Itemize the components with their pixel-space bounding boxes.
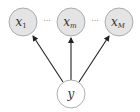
ellipsis-right: ··· <box>91 16 99 25</box>
node-x1: x1 <box>9 8 37 36</box>
graphical-model-diagram: x1 xm xM ··· ··· y <box>0 0 140 112</box>
node-xm: xm <box>57 8 85 36</box>
edge-y-to-x1 <box>33 36 63 82</box>
node-y-label: y <box>67 87 75 101</box>
edges <box>33 36 109 82</box>
node-xM: xM <box>105 8 133 36</box>
edge-y-to-xM <box>79 36 109 82</box>
node-y: y <box>57 80 85 108</box>
ellipsis-left: ··· <box>43 16 51 25</box>
